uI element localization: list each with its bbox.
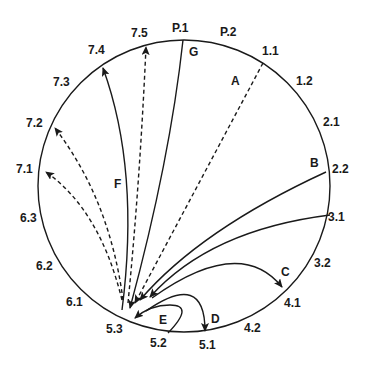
arrow-B-solid <box>140 172 326 300</box>
state-label-5-2: 5.2 <box>150 337 167 349</box>
state-label-7-2: 7.2 <box>26 117 43 129</box>
arrow-A-dashed <box>135 63 263 303</box>
transition-diagram: P.1P.21.11.22.12.23.13.24.14.25.15.25.36… <box>0 0 369 371</box>
state-label-P-2: P.2 <box>220 26 236 38</box>
arrow-7.5-dashed <box>128 47 146 303</box>
state-label-3-1: 3.1 <box>328 211 345 223</box>
state-label-6-2: 6.2 <box>36 260 53 272</box>
state-label-P-1: P.1 <box>172 22 188 34</box>
state-label-6-3: 6.3 <box>20 212 37 224</box>
diagram-canvas <box>0 0 369 371</box>
transition-label-D: D <box>211 313 220 325</box>
state-label-1-2: 1.2 <box>296 75 313 87</box>
arrow-G-solid <box>130 40 183 308</box>
state-label-5-1: 5.1 <box>199 339 216 351</box>
state-circle <box>38 40 330 332</box>
state-label-7-1: 7.1 <box>16 163 33 175</box>
transition-label-C: C <box>281 266 290 278</box>
state-label-7-3: 7.3 <box>53 76 70 88</box>
state-label-7-5: 7.5 <box>131 27 148 39</box>
transition-label-B: B <box>310 157 319 169</box>
state-label-1-1: 1.1 <box>262 45 279 57</box>
state-label-5-3: 5.3 <box>106 323 123 335</box>
state-label-6-1: 6.1 <box>66 296 83 308</box>
arrow-7.2-dashed <box>55 128 123 300</box>
transition-label-E: E <box>159 314 167 326</box>
state-label-4-2: 4.2 <box>244 322 261 334</box>
arrow-lower-solid <box>150 215 330 297</box>
transition-label-G: G <box>189 46 198 58</box>
state-label-3-2: 3.2 <box>314 257 331 269</box>
transition-label-F: F <box>114 178 121 190</box>
state-label-4-1: 4.1 <box>284 297 301 309</box>
state-label-2-2: 2.2 <box>332 163 349 175</box>
transition-label-A: A <box>231 75 240 87</box>
state-label-2-1: 2.1 <box>323 116 340 128</box>
state-label-7-4: 7.4 <box>88 44 105 56</box>
arrow-7.1-dashed <box>46 172 122 300</box>
